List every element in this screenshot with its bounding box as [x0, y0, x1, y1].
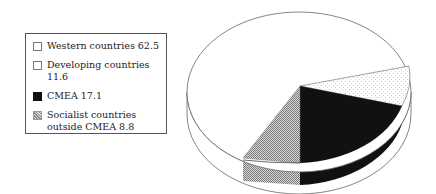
pie-chart — [0, 0, 436, 194]
